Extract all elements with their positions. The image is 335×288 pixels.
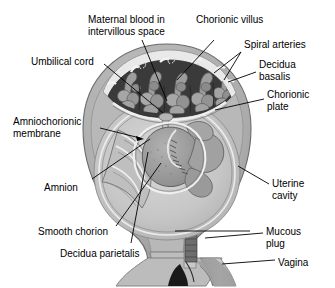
leader-vagina bbox=[222, 260, 275, 264]
label-uterine-cavity: Uterine cavity bbox=[272, 178, 304, 201]
label-smooth-chorion: Smooth chorion bbox=[38, 226, 108, 238]
label-chorionic-plate: Chorionic plate bbox=[267, 89, 309, 112]
label-chorionic-villus: Chorionic villus bbox=[196, 14, 263, 26]
label-mucous-plug: Mucous plug bbox=[266, 226, 301, 249]
label-decidua-parietalis: Decidua parietalis bbox=[60, 248, 140, 260]
label-vagina: Vagina bbox=[278, 257, 308, 269]
label-decidua-basalis: Decidua basalis bbox=[259, 59, 296, 82]
label-maternal-blood: Maternal blood in intervillous space bbox=[88, 14, 165, 37]
figure-container: Maternal blood in intervillous space Cho… bbox=[0, 0, 335, 288]
leader-mucous-plug bbox=[205, 233, 263, 238]
label-amnion: Amnion bbox=[44, 182, 78, 194]
label-amniochorionic-membrane: Amniochorionic membrane bbox=[13, 116, 81, 139]
label-umbilical-cord: Umbilical cord bbox=[31, 56, 94, 68]
label-spiral-arteries: Spiral arteries bbox=[244, 39, 306, 51]
